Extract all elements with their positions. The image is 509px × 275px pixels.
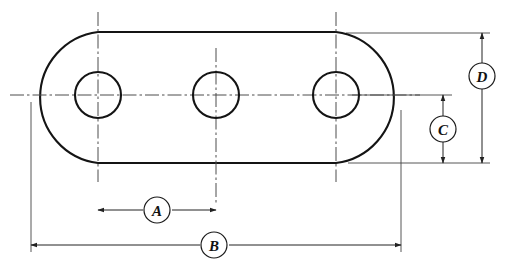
extension-lines [31,33,490,252]
engineering-drawing-canvas: A B C D [0,0,509,275]
part-outline [40,32,394,163]
dimension-c-label: C [438,122,449,138]
dimension-b: B [31,232,401,258]
dimension-d-label: D [476,69,488,85]
dimension-b-label: B [208,238,219,254]
dimension-a: A [98,197,216,223]
dimension-a-label: A [151,203,162,219]
dimension-d: D [469,33,495,163]
plate-outline-path [40,32,394,163]
dimension-c: C [430,95,456,163]
drawing-svg: A B C D [0,0,509,275]
